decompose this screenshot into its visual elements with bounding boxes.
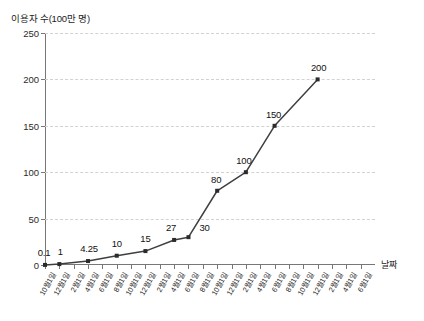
y-tick-label: 100: [23, 167, 39, 178]
x-tick-mark: [332, 265, 333, 269]
x-tick-mark: [131, 265, 132, 269]
x-tick-mark: [145, 265, 146, 269]
x-tick-mark: [275, 265, 276, 269]
x-tick-mark: [318, 265, 319, 269]
plot-area: 050100150200250 10월1일12월1일2월1일4월1일6월1일8월…: [45, 33, 375, 265]
x-tick-mark: [74, 265, 75, 269]
data-point-marker: [316, 77, 320, 81]
data-point-marker: [215, 189, 219, 193]
y-axis-title: 이용자 수(100만 명): [11, 11, 90, 25]
data-point-marker: [143, 249, 147, 253]
data-point-label: 0.1: [38, 247, 51, 258]
x-tick-mark: [232, 265, 233, 269]
data-point-label: 150: [266, 109, 281, 120]
data-point-label: 1: [58, 246, 63, 257]
data-point-marker: [57, 262, 61, 266]
y-tick-label: 150: [23, 120, 39, 131]
data-point-label: 27: [166, 222, 176, 233]
x-tick-mark: [174, 265, 175, 269]
y-tick-label: 50: [28, 213, 39, 224]
x-tick-mark: [188, 265, 189, 269]
data-point-marker: [244, 170, 248, 174]
data-point-label: 4.25: [80, 243, 98, 254]
x-tick-mark: [260, 265, 261, 269]
x-tick-mark: [160, 265, 161, 269]
y-tick-label: 250: [23, 28, 39, 39]
data-point-label: 30: [199, 222, 209, 233]
data-point-marker: [172, 238, 176, 242]
x-tick-mark: [102, 265, 103, 269]
x-tick-mark: [246, 265, 247, 269]
x-tick-mark: [346, 265, 347, 269]
x-tick-mark: [303, 265, 304, 269]
x-tick-mark: [361, 265, 362, 269]
x-tick-mark: [88, 265, 89, 269]
data-point-marker: [186, 235, 190, 239]
series-line: [45, 79, 318, 265]
chart-container: 이용자 수(100만 명) 050100150200250 10월1일12월1일…: [0, 0, 424, 321]
data-point-label: 200: [311, 62, 326, 73]
x-tick-mark: [203, 265, 204, 269]
data-point-label: 80: [211, 174, 221, 185]
data-point-marker: [43, 263, 47, 267]
y-tick-label: 0: [34, 260, 39, 271]
data-point-label: 10: [112, 238, 122, 249]
data-point-marker: [86, 259, 90, 263]
x-tick-mark: [289, 265, 290, 269]
data-point-label: 100: [236, 155, 251, 166]
x-tick-mark: [117, 265, 118, 269]
data-point-marker: [115, 254, 119, 258]
x-axis-title: 날짜: [381, 258, 397, 271]
x-tick-mark: [217, 265, 218, 269]
y-tick-label: 200: [23, 74, 39, 85]
data-point-label: 15: [140, 233, 150, 244]
data-point-marker: [273, 124, 277, 128]
